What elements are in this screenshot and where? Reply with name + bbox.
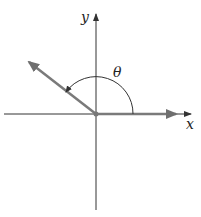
angle-diagram: y x θ [0, 0, 201, 217]
origin-point [94, 112, 99, 117]
terminal-side-vector [29, 62, 96, 114]
angle-theta-label: θ [113, 64, 122, 80]
y-axis-label: y [80, 9, 90, 25]
x-axis-label: x [186, 116, 194, 132]
angle-arc [66, 77, 133, 114]
